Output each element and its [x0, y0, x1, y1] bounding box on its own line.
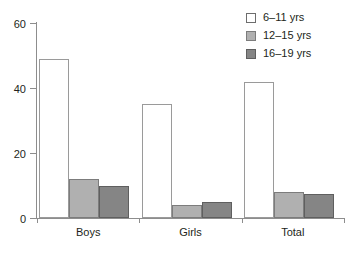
x-axis-line — [36, 218, 344, 219]
legend-swatch-6-11-yrs — [246, 13, 256, 23]
bar-chart: 0204060 BoysGirlsTotal 6–11 yrs 12–15 yr… — [0, 0, 353, 254]
y-axis-tick: 0 — [30, 218, 36, 219]
x-axis-tick — [37, 218, 38, 223]
x-axis-label-girls: Girls — [139, 226, 241, 238]
bar-total-series-2 — [274, 192, 304, 218]
x-axis-label-total: Total — [242, 226, 344, 238]
y-axis-tick: 60 — [30, 23, 36, 24]
legend-label-12-15-yrs: 12–15 yrs — [263, 30, 311, 41]
y-axis-tick-label: 40 — [14, 83, 26, 94]
y-axis-tick: 40 — [30, 88, 36, 89]
chart-legend: 6–11 yrs 12–15 yrs 16–19 yrs — [246, 10, 311, 64]
legend-swatch-12-15-yrs — [246, 31, 256, 41]
y-axis-tick: 20 — [30, 153, 36, 154]
bar-boys-series-3 — [99, 186, 129, 219]
bar-girls-series-1 — [142, 104, 172, 218]
x-axis-label-boys: Boys — [37, 226, 139, 238]
legend-swatch-16-19-yrs — [246, 49, 256, 59]
bar-boys-series-1 — [39, 59, 69, 218]
bar-total-series-1 — [244, 82, 274, 219]
legend-label-6-11-yrs: 6–11 yrs — [263, 12, 304, 23]
bar-total-series-3 — [304, 194, 334, 218]
legend-item: 6–11 yrs — [246, 10, 311, 25]
legend-item: 12–15 yrs — [246, 28, 311, 43]
x-axis-tick — [242, 218, 243, 223]
y-axis-tick-label: 0 — [20, 213, 26, 224]
x-axis-tick — [139, 218, 140, 223]
y-axis-tick-label: 20 — [14, 148, 26, 159]
legend-label-16-19-yrs: 16–19 yrs — [263, 48, 311, 59]
bar-girls-series-3 — [202, 202, 232, 218]
x-axis-tick — [344, 218, 345, 223]
bar-boys-series-2 — [69, 179, 99, 218]
legend-item: 16–19 yrs — [246, 46, 311, 61]
bar-girls-series-2 — [172, 205, 202, 218]
y-axis-tick-label: 60 — [14, 18, 26, 29]
